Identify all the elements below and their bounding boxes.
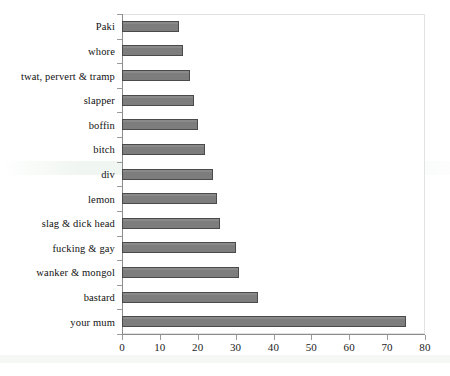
scan-artifact-band-lower xyxy=(0,355,450,363)
bar xyxy=(122,193,217,204)
bar xyxy=(122,21,179,32)
y-axis-tick xyxy=(117,39,122,40)
x-axis-tick-label: 70 xyxy=(367,341,407,353)
y-axis-tick xyxy=(117,285,122,286)
x-axis-tick xyxy=(349,335,350,340)
category-label: slapper xyxy=(0,95,115,106)
y-axis-tick xyxy=(117,236,122,237)
bar xyxy=(122,169,213,180)
bar-chart: Pakiwhoretwat, pervert & trampslapperbof… xyxy=(0,0,450,376)
x-axis-tick-label: 50 xyxy=(291,341,331,353)
bar xyxy=(122,316,406,327)
y-axis-tick xyxy=(117,112,122,113)
category-label: wanker & mongol xyxy=(0,267,115,278)
y-axis-tick xyxy=(117,162,122,163)
category-label: Paki xyxy=(0,21,115,32)
x-axis-tick xyxy=(387,335,388,340)
x-axis-tick xyxy=(311,335,312,340)
category-label: twat, pervert & tramp xyxy=(0,70,115,81)
y-axis-tick xyxy=(117,88,122,89)
x-axis-tick xyxy=(425,335,426,340)
bar xyxy=(122,218,220,229)
bar xyxy=(122,70,190,81)
x-axis-tick xyxy=(122,335,123,340)
x-axis-tick-label: 80 xyxy=(405,341,445,353)
y-axis-tick xyxy=(117,137,122,138)
bar xyxy=(122,292,258,303)
x-axis-tick-label: 20 xyxy=(178,341,218,353)
y-axis-tick xyxy=(117,211,122,212)
x-axis-tick xyxy=(198,335,199,340)
category-label: boffin xyxy=(0,119,115,130)
x-axis-tick-label: 10 xyxy=(140,341,180,353)
bar xyxy=(122,267,239,278)
bar xyxy=(122,242,236,253)
x-axis-tick xyxy=(160,335,161,340)
bar xyxy=(122,45,183,56)
x-axis-tick xyxy=(274,335,275,340)
category-label: lemon xyxy=(0,193,115,204)
x-axis-tick xyxy=(236,335,237,340)
y-axis-tick xyxy=(117,309,122,310)
x-axis-tick-label: 60 xyxy=(329,341,369,353)
y-axis-tick xyxy=(117,186,122,187)
y-axis-tick xyxy=(117,260,122,261)
category-label: slag & dick head xyxy=(0,218,115,229)
category-label: bitch xyxy=(0,144,115,155)
bar xyxy=(122,144,205,155)
x-axis-tick-label: 30 xyxy=(216,341,256,353)
y-axis-tick xyxy=(117,14,122,15)
x-axis-tick-label: 0 xyxy=(102,341,142,353)
category-label: your mum xyxy=(0,316,115,327)
bar xyxy=(122,119,198,130)
category-label: bastard xyxy=(0,292,115,303)
category-label: fucking & gay xyxy=(0,242,115,253)
bar xyxy=(122,95,194,106)
x-axis-tick-label: 40 xyxy=(254,341,294,353)
y-axis-tick xyxy=(117,63,122,64)
category-label: whore xyxy=(0,45,115,56)
category-label: div xyxy=(0,169,115,180)
